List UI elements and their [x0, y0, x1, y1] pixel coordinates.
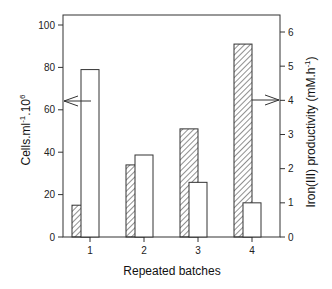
- right-tick-label: 0: [288, 232, 294, 243]
- left-tick-label: 100: [38, 20, 55, 31]
- left-tick-label: 80: [44, 62, 56, 73]
- bar-iron-productivity: [135, 155, 153, 237]
- right-tick-label: 6: [288, 27, 294, 38]
- bar-iron-productivity: [189, 182, 207, 237]
- bar-iron-productivity: [81, 70, 99, 237]
- right-axis-title: Iron(III) productivity (mM.h-1): [303, 56, 318, 207]
- right-tick-label: 3: [288, 129, 294, 140]
- left-tick-label: 40: [44, 147, 56, 158]
- x-tick-label: 4: [249, 245, 255, 256]
- right-tick-label: 5: [288, 61, 294, 72]
- left-tick-label: 60: [44, 104, 56, 115]
- x-axis-title: Repeated batches: [123, 264, 220, 278]
- right-axis: 0123456: [280, 27, 294, 243]
- left-axis: 020406080100: [38, 20, 63, 243]
- bars: [72, 44, 261, 237]
- left-tick-label: 20: [44, 189, 56, 200]
- x-tick-label: 3: [195, 245, 201, 256]
- chart: 020406080100 0123456 1234 Repeated batch…: [0, 0, 332, 289]
- bar-iron-productivity: [243, 203, 261, 237]
- right-tick-label: 2: [288, 163, 294, 174]
- x-tick-label: 2: [141, 245, 147, 256]
- right-tick-label: 1: [288, 197, 294, 208]
- left-tick-label: 0: [49, 232, 55, 243]
- x-axis: 1234: [87, 237, 255, 256]
- x-tick-label: 1: [87, 245, 93, 256]
- left-axis-title: Cells.ml-1.106: [18, 94, 33, 165]
- right-tick-label: 4: [288, 95, 294, 106]
